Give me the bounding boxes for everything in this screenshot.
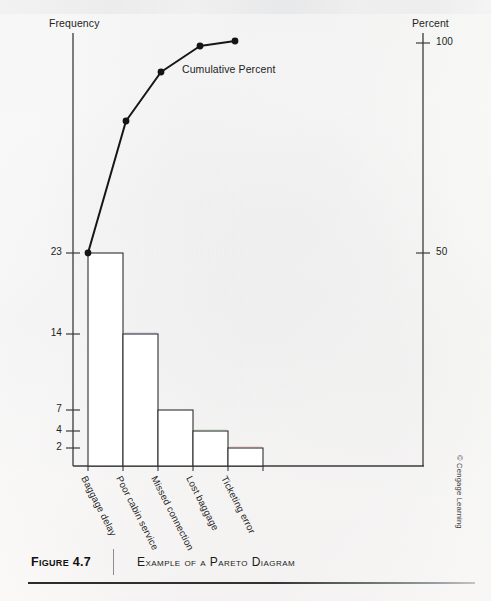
bar-poor-cabin-service	[123, 334, 158, 466]
chart-canvas	[0, 0, 491, 530]
bar-lost-baggage	[193, 431, 228, 466]
left-tick-label-23: 23	[36, 246, 62, 257]
figure-title: Example of a Pareto Diagram	[137, 555, 295, 569]
copyright-notice: © Cengage Learning	[455, 455, 464, 529]
bar-ticketing-error	[228, 448, 263, 466]
right-axis-title: Percent	[412, 17, 449, 29]
right-tick-label-50: 50	[436, 246, 466, 257]
bar-missed-connection	[158, 410, 193, 466]
left-tick-label-14: 14	[36, 327, 62, 338]
left-tick-label-4: 4	[36, 424, 62, 435]
figure-number: Figure 4.7	[31, 555, 91, 569]
data-point-2	[123, 118, 130, 125]
cumulative-percent-label: Cumulative Percent	[182, 63, 275, 75]
bar-baggage-delay	[88, 253, 123, 466]
data-point-3	[158, 69, 165, 76]
data-point-1	[85, 250, 92, 257]
left-axis-title: Frequency	[49, 17, 100, 29]
right-tick-label-100: 100	[436, 36, 466, 47]
left-tick-label-2: 2	[36, 441, 62, 452]
figure-caption-row: Figure 4.7 Example of a Pareto Diagram	[0, 545, 491, 579]
caption-divider	[113, 549, 114, 575]
left-tick-label-7: 7	[36, 403, 62, 414]
pareto-chart: Frequency Percent Cumulative Percent 23 …	[0, 0, 491, 530]
data-point-5	[232, 38, 239, 45]
footer-rule	[28, 582, 475, 584]
data-point-4	[197, 43, 204, 50]
